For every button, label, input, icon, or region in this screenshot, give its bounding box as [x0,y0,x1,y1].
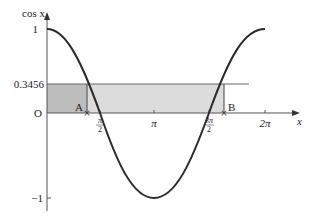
cross-icon-b: × [220,108,228,118]
x-axis-label: x [296,115,302,127]
shaded-region-light [87,84,224,113]
x-tick-pi: π [151,117,157,129]
x-tick-3pi-half-num: 3π [204,116,214,125]
point-b-label: B [228,101,235,113]
cross-icon-a: × [83,108,91,118]
y-tick-label-minus-1: −1 [31,192,43,204]
x-tick-2pi: 2π [259,117,271,129]
y-axis-label: cos x [22,7,45,19]
x-tick-3pi-half-den: 2 [207,125,211,134]
cosine-graph: × × cos x x 1 0.3456 O −1 A B π 2 π 3π 2… [0,0,318,219]
point-a-label: A [75,101,83,113]
origin-label: O [34,107,42,119]
y-tick-label-1: 1 [33,23,39,35]
x-tick-pi-half-den: 2 [98,125,102,134]
y-tick-label-0-3456: 0.3456 [14,78,45,90]
